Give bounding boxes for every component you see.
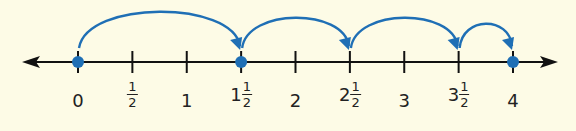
denominator: 2 [351,95,359,109]
denominator: 2 [128,95,136,109]
tick-label: 3 [399,92,410,110]
whole-part: 0 [72,90,83,111]
whole-part: 4 [507,90,518,111]
tick-label: 1 [181,92,192,110]
denominator: 2 [243,95,251,109]
jump-arrowhead-icon [448,37,460,50]
tick-label: 112 [230,80,252,109]
fraction: 12 [127,80,137,109]
jump-arrowhead-icon [502,37,514,50]
jump-arc [351,18,458,48]
whole-part: 1 [230,84,241,105]
denominator: 2 [460,95,468,109]
numerator: 1 [350,80,360,95]
jump-arc [460,24,512,48]
fraction: 12 [350,80,360,109]
number-line-diagram: 0121112221233124 [0,0,576,131]
number-line-svg [0,0,576,131]
numerator: 1 [459,80,469,95]
tick-label: 2 [290,92,301,110]
whole-part: 2 [339,84,350,105]
jump-arrowhead-icon [339,37,351,50]
jump-arc [242,18,349,48]
jump-arc [79,12,240,48]
tick-label: 4 [507,92,518,110]
point-dot [235,56,247,68]
numerator: 1 [127,80,137,95]
fraction: 12 [242,80,252,109]
tick-label: 0 [72,92,83,110]
tick-label: 12 [127,80,137,109]
fraction: 12 [459,80,469,109]
tick-label: 212 [339,80,361,109]
whole-part: 3 [399,90,410,111]
numerator: 1 [242,80,252,95]
jump-arrowhead-icon [230,37,242,50]
whole-part: 1 [181,90,192,111]
whole-part: 2 [290,90,301,111]
tick-label: 312 [448,80,470,109]
point-dot [72,56,84,68]
whole-part: 3 [448,84,459,105]
point-dot [507,56,519,68]
